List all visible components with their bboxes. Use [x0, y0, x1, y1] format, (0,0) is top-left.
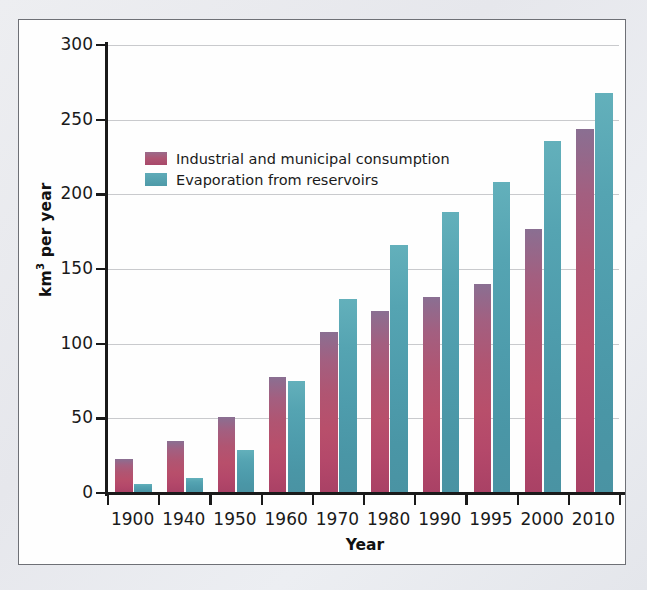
bar-2010-series1: [595, 93, 613, 493]
bar-1990-series1: [442, 212, 460, 493]
y-axis-tick-label: 300: [31, 34, 93, 54]
x-axis-tick: [209, 494, 211, 505]
legend-swatch-evaporation: [145, 173, 167, 186]
x-axis-tick: [107, 494, 109, 505]
x-axis-tick: [619, 494, 621, 505]
legend-label-evaporation: Evaporation from reservoirs: [176, 172, 378, 188]
plot-area: [107, 45, 615, 493]
y-axis-tick-label: 50: [31, 407, 93, 427]
page-background: 050100150200250300 190019401950196019701…: [0, 0, 647, 590]
x-axis-title: Year: [105, 536, 625, 554]
x-axis-tick: [465, 494, 467, 505]
chart-panel: 050100150200250300 190019401950196019701…: [18, 19, 626, 565]
bar-1900-series0: [115, 459, 133, 493]
legend-swatch-industrial: [145, 152, 167, 165]
y-axis-tick: [96, 343, 106, 345]
y-axis-tick: [96, 268, 106, 270]
bar-2000-series0: [525, 229, 543, 493]
bar-1995-series0: [474, 284, 492, 493]
chart-legend: Industrial and municipal consumption Eva…: [145, 149, 450, 191]
x-axis-tick: [312, 494, 314, 505]
bar-2010-series0: [576, 129, 594, 493]
bar-1990-series0: [423, 297, 441, 493]
x-axis-tick: [414, 494, 416, 505]
bar-1970-series1: [339, 299, 357, 493]
bar-1940-series1: [186, 478, 204, 493]
y-axis-tick: [96, 193, 106, 195]
bar-1980-series1: [390, 245, 408, 493]
x-axis-tick: [363, 494, 365, 505]
x-axis-tick: [158, 494, 160, 505]
bar-1960-series0: [269, 377, 287, 493]
legend-label-industrial: Industrial and municipal consumption: [176, 151, 450, 167]
y-axis-tick: [96, 119, 106, 121]
x-axis-tick: [568, 494, 570, 505]
bar-1960-series1: [288, 381, 306, 493]
x-axis-tick: [261, 494, 263, 505]
bar-1940-series0: [167, 441, 185, 493]
bar-1950-series1: [237, 450, 255, 493]
bar-1995-series1: [493, 182, 511, 493]
bar-1970-series0: [320, 332, 338, 493]
legend-item-evaporation: Evaporation from reservoirs: [145, 170, 450, 189]
bar-1950-series0: [218, 417, 236, 493]
y-axis-tick: [96, 44, 106, 46]
y-axis-title: km3 per year: [35, 120, 54, 360]
y-axis-tick: [96, 492, 106, 494]
x-axis-tick: [517, 494, 519, 505]
legend-item-industrial: Industrial and municipal consumption: [145, 149, 450, 168]
bar-1980-series0: [371, 311, 389, 493]
x-axis-tick-label: 2010: [561, 509, 625, 529]
y-axis-tick-label: 0: [31, 482, 93, 502]
bar-2000-series1: [544, 141, 562, 493]
y-axis-tick: [96, 417, 106, 419]
